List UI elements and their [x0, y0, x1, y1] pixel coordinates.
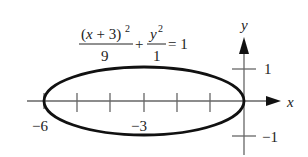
eq-den1: 9 [101, 48, 109, 64]
eq-den2: 1 [153, 48, 161, 64]
x-axis-arrow-icon [266, 96, 281, 106]
eq-num2-exp: 2 [158, 23, 163, 34]
ellipse-graph: x y −6 −3 1 −1 (x + 3) 2 9 + y 2 1 = 1 [0, 0, 308, 157]
x-ticks [44, 93, 210, 112]
tick-label-neg1: −1 [262, 129, 278, 145]
x-axis-label: x [286, 94, 294, 110]
tick-label-neg3: −3 [131, 118, 147, 134]
eq-plus: + [135, 36, 143, 52]
tick-label-neg6: −6 [32, 118, 48, 134]
equation: (x + 3) 2 9 + y 2 1 = 1 [79, 23, 188, 64]
eq-num1-exp: 2 [125, 23, 130, 34]
tick-label-pos1: 1 [264, 61, 272, 77]
eq-num1: (x + 3) [81, 26, 121, 43]
eq-rhs: = 1 [168, 36, 188, 52]
eq-num2: y [148, 26, 157, 42]
y-axis-label: y [239, 17, 248, 33]
y-axis-arrow-icon [239, 37, 249, 54]
